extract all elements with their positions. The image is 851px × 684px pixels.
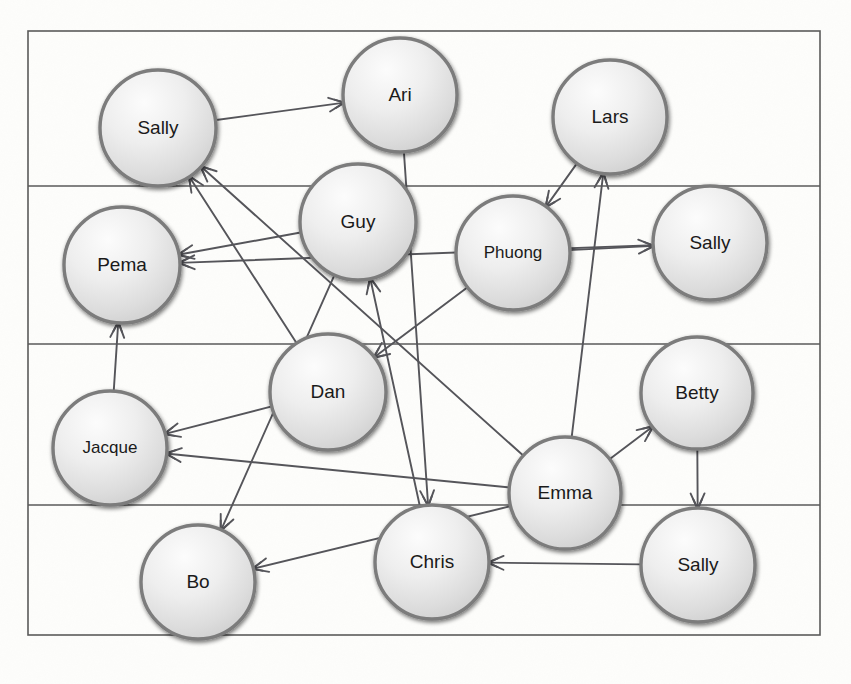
node-lars[interactable]: Lars [553,60,667,174]
node-circle[interactable] [641,508,755,622]
node-chris[interactable]: Chris [375,505,489,619]
node-pema[interactable]: Pema [64,207,180,323]
node-circle[interactable] [64,207,180,323]
graph-svg: SallyAriLarsPemaGuyPhuongSallyDanBettyJa… [0,0,851,684]
node-circle[interactable] [641,337,753,449]
node-ari[interactable]: Ari [343,38,457,152]
node-circle[interactable] [509,437,621,549]
node-circle[interactable] [553,60,667,174]
node-bo[interactable]: Bo [141,525,255,639]
node-sally_r[interactable]: Sally [653,186,767,300]
node-circle[interactable] [270,334,386,450]
node-circle[interactable] [375,505,489,619]
node-guy[interactable]: Guy [300,164,416,280]
node-circle[interactable] [653,186,767,300]
node-circle[interactable] [53,391,167,505]
node-sally_br[interactable]: Sally [641,508,755,622]
node-circle[interactable] [100,70,216,186]
node-circle[interactable] [141,525,255,639]
node-circle[interactable] [343,38,457,152]
node-emma[interactable]: Emma [509,437,621,549]
node-circle[interactable] [456,196,570,310]
network-diagram: SallyAriLarsPemaGuyPhuongSallyDanBettyJa… [0,0,851,684]
node-circle[interactable] [300,164,416,280]
node-sally_tl[interactable]: Sally [100,70,216,186]
node-betty[interactable]: Betty [641,337,753,449]
node-phuong[interactable]: Phuong [456,196,570,310]
node-dan[interactable]: Dan [270,334,386,450]
node-jacque[interactable]: Jacque [53,391,167,505]
